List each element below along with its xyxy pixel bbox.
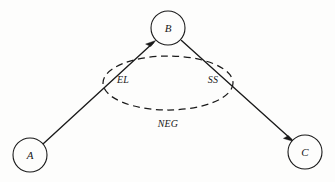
edge-a-to-b xyxy=(44,40,156,143)
edge-b-to-c-line xyxy=(182,41,292,140)
node-c-label: C xyxy=(301,146,309,158)
edge-b-to-c xyxy=(182,41,294,142)
node-a-label: A xyxy=(26,149,34,161)
diagram-canvas: A B C EL SS NEG xyxy=(0,0,335,182)
node-a[interactable]: A xyxy=(13,138,47,172)
edge-a-to-b-arrowhead xyxy=(146,40,156,46)
label-ss: SS xyxy=(208,74,218,85)
label-neg: NEG xyxy=(157,118,179,129)
node-b[interactable]: B xyxy=(151,11,185,45)
label-el: EL xyxy=(116,74,129,85)
node-c[interactable]: C xyxy=(288,135,322,169)
node-b-label: B xyxy=(165,22,172,34)
graph-diagram: A B C EL SS NEG xyxy=(0,0,335,182)
edge-a-to-b-line xyxy=(44,43,154,144)
